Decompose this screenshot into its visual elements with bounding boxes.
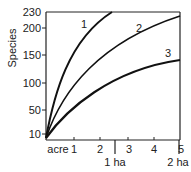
y-tick-50: 50: [29, 104, 41, 116]
series-3-label: 3: [165, 47, 171, 59]
y-tick-10: 10: [29, 128, 41, 140]
x-tick-acre: acre: [47, 143, 68, 155]
y-axis-label: Species: [6, 28, 18, 68]
series-2-label: 2: [136, 22, 142, 34]
y-tick-150: 150: [23, 49, 41, 61]
series-1-label: 1: [81, 18, 87, 30]
x-tick-1: 1: [71, 143, 77, 155]
x-tick-5: 5: [178, 143, 184, 155]
y-tick-200: 200: [23, 22, 41, 34]
y-tick-230: 230: [23, 6, 41, 18]
series-1-curve: [46, 12, 112, 138]
species-area-chart: 230 200 150 100 50 10 Species acre 1 2 3…: [0, 0, 191, 172]
chart-svg: 230 200 150 100 50 10 Species acre 1 2 3…: [0, 0, 191, 172]
x-tick-2: 2: [97, 143, 103, 155]
x-tick-3: 3: [126, 143, 132, 155]
x-tick-1ha: 1 ha: [104, 156, 126, 168]
series-2-curve: [46, 16, 180, 138]
x-tick-2ha: 2 ha: [167, 156, 189, 168]
series-3-curve: [46, 60, 180, 138]
y-tick-100: 100: [23, 77, 41, 89]
x-tick-4: 4: [151, 143, 157, 155]
